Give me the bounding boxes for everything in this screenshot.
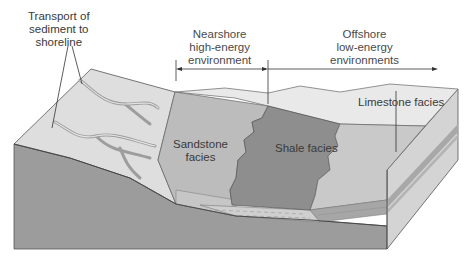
offshore-label: Offshore low-energy environments bbox=[330, 28, 399, 67]
transport-label-line1: Transport of bbox=[28, 10, 90, 23]
nearshore-label-line2: high-energy bbox=[188, 41, 251, 54]
shale-label: Shale facies bbox=[275, 142, 338, 155]
transport-leader-2 bbox=[72, 46, 82, 84]
sandstone-label: Sandstone facies bbox=[173, 138, 228, 164]
nearshore-label-line3: environment bbox=[188, 54, 251, 67]
transport-label-line3: shoreline bbox=[28, 36, 90, 49]
transport-label-line2: sediment to bbox=[28, 23, 90, 36]
sandstone-label-line2: facies bbox=[173, 151, 228, 164]
nearshore-label-line1: Nearshore bbox=[188, 28, 251, 41]
sandstone-label-line1: Sandstone bbox=[173, 138, 228, 151]
nearshore-label: Nearshore high-energy environment bbox=[188, 28, 251, 67]
facies-block-diagram: Transport of sediment to shoreline Nears… bbox=[0, 0, 474, 266]
offshore-label-line3: environments bbox=[330, 54, 399, 67]
offshore-label-line1: Offshore bbox=[330, 28, 399, 41]
limestone-label-text: Limestone facies bbox=[358, 96, 444, 108]
shale-label-text: Shale facies bbox=[275, 142, 338, 154]
transport-label: Transport of sediment to shoreline bbox=[28, 10, 90, 49]
offshore-label-line2: low-energy bbox=[330, 41, 399, 54]
limestone-label: Limestone facies bbox=[358, 96, 444, 109]
